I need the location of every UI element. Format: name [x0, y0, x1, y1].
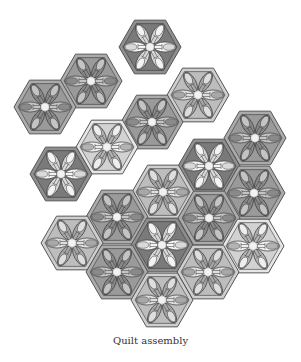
block-center: [113, 213, 121, 221]
block-center: [87, 77, 95, 85]
petal: [111, 142, 133, 152]
petal: [121, 267, 143, 277]
block-center: [204, 268, 212, 276]
petal: [166, 295, 188, 305]
petal: [136, 240, 158, 250]
petal: [156, 117, 178, 127]
petal: [121, 212, 143, 222]
block-center: [113, 268, 121, 276]
petal: [258, 188, 280, 198]
block-center: [249, 242, 257, 250]
block-center: [250, 189, 258, 197]
quilt-assembly-diagram: [0, 0, 301, 362]
petal: [136, 295, 158, 305]
block-center: [194, 91, 202, 99]
petal: [65, 169, 87, 179]
petal: [213, 213, 235, 223]
figure-caption: Quilt assembly: [0, 335, 301, 346]
petal: [202, 90, 224, 100]
petal: [183, 213, 205, 223]
block-center: [205, 162, 213, 170]
petal: [124, 42, 146, 52]
petal: [182, 267, 204, 277]
quilt-block: [119, 20, 181, 74]
petal: [65, 76, 87, 86]
petal: [166, 240, 188, 250]
block-center: [158, 296, 166, 304]
petal: [46, 238, 68, 248]
block-center: [158, 241, 166, 249]
block-center: [251, 134, 259, 142]
petal: [227, 241, 249, 251]
block-center: [57, 170, 65, 178]
petal: [229, 133, 251, 143]
petal: [167, 187, 189, 197]
petal: [154, 42, 176, 52]
block-center: [41, 103, 49, 111]
block-center: [103, 143, 111, 151]
petal: [213, 161, 235, 171]
petal: [91, 267, 113, 277]
petal: [81, 142, 103, 152]
petal: [257, 241, 279, 251]
petal: [228, 188, 250, 198]
block-center: [148, 118, 156, 126]
petal: [137, 187, 159, 197]
petal: [95, 76, 117, 86]
petal: [49, 102, 71, 112]
petal: [35, 169, 57, 179]
block-center: [68, 239, 76, 247]
petal: [259, 133, 281, 143]
petal: [76, 238, 98, 248]
petal: [212, 267, 234, 277]
block-center: [205, 214, 213, 222]
petal: [91, 212, 113, 222]
petal: [19, 102, 41, 112]
petal: [183, 161, 205, 171]
block-center: [159, 188, 167, 196]
petal: [126, 117, 148, 127]
petal: [172, 90, 194, 100]
block-center: [146, 43, 154, 51]
